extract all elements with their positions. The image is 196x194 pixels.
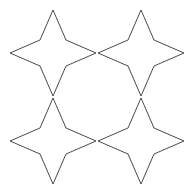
- figure-container: Four overlapping four-pointed stars Line…: [0, 0, 196, 194]
- star-tessellation-figure: Four overlapping four-pointed stars Line…: [0, 0, 196, 194]
- figure-background: [0, 0, 196, 194]
